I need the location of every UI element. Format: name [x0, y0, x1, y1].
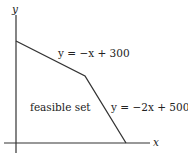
constraint-label-1: y = −x + 300: [57, 47, 130, 59]
constraint-label-2: y = −2x + 500: [110, 101, 188, 113]
feasible-set-label: feasible set: [30, 101, 91, 113]
x-axis-label: x: [153, 136, 159, 148]
feasible-set-diagram: y x y = −x + 300 y = −2x + 500 feasible …: [0, 0, 188, 158]
y-axis-label: y: [11, 3, 19, 15]
